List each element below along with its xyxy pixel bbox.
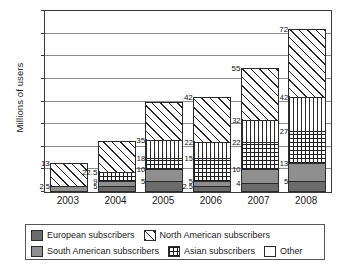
bar-value-label: 42 — [280, 94, 288, 102]
legend-label: North American subscribers — [160, 231, 271, 240]
bar-segment-2008-vertical-stripes: 42 — [288, 97, 326, 131]
legend-row: South American subscribersAsian subscrib… — [31, 244, 319, 258]
bar-segment-2007-diagonal-hatch: 55 — [241, 68, 279, 120]
bar-value-label: 55 — [232, 65, 241, 73]
bar-segment-2005-diagonal-hatch — [145, 102, 183, 140]
bar-group-2006: 2.55152242 — [193, 97, 231, 192]
bar-segment-2004-solid-medium-gray: 9 — [98, 181, 136, 187]
bar-segment-2005-cross-hatch-grid: 18 — [145, 158, 183, 169]
stacked-bar-chart: Millions of users 2.5135922.551018352.55… — [0, 0, 344, 266]
legend-label: South American subscribers — [47, 247, 159, 256]
bar-segment-2006-cross-hatch-grid: 15 — [193, 158, 231, 181]
bar-segment-2008-cross-hatch-grid: 27 — [288, 131, 326, 163]
bar-value-label: 10 — [137, 167, 145, 175]
bar-value-label: 72 — [279, 26, 288, 34]
legend-item[interactable]: Other — [264, 246, 303, 257]
bar-segment-2007-vertical-stripes: 32 — [241, 120, 279, 143]
bar-segment-2005-solid-medium-gray: 10 — [145, 169, 183, 180]
bar-group-2007: 410223255 — [241, 68, 279, 192]
x-axis-tick-labels: 200320042005200620072008 — [44, 195, 332, 209]
bar-segment-2005-vertical-stripes: 35 — [145, 140, 183, 158]
legend-swatch-empty-white — [264, 246, 276, 257]
bar-group-2005: 5101835 — [145, 102, 183, 192]
bar-segment-2004-solid-dark-gray: 5 — [98, 186, 136, 192]
x-axis-tick-label-2006: 2006 — [186, 195, 236, 206]
bar-segment-2008-solid-dark-gray: 5 — [288, 181, 326, 192]
bar-group-2008: 513274272 — [288, 29, 326, 192]
bar-value-label: 42 — [184, 94, 193, 102]
bar-value-label: 15 — [184, 155, 192, 163]
bar-segment-2007-solid-dark-gray: 4 — [241, 183, 279, 192]
bar-segment-2004-diagonal-hatch — [98, 141, 136, 172]
bar-value-label: 32 — [232, 117, 240, 125]
bar-value-label: 13 — [280, 160, 288, 168]
chart-legend: European subscribersNorth American subsc… — [25, 224, 325, 260]
bars-container: 2.5135922.551018352.55152242410223255513… — [45, 11, 331, 192]
plot-area: 2.5135922.551018352.55152242410223255513… — [44, 10, 332, 193]
legend-label: European subscribers — [47, 231, 135, 240]
legend-label: Other — [280, 247, 303, 256]
bar-value-label: 22 — [184, 139, 192, 147]
legend-item[interactable]: Asian subscribers — [168, 246, 255, 257]
legend-item[interactable]: North American subscribers — [144, 230, 271, 241]
y-axis-title: Millions of users — [14, 28, 25, 168]
bar-value-label: 35 — [136, 137, 145, 145]
legend-item[interactable]: European subscribers — [31, 230, 135, 241]
bar-value-label: 2.5 — [39, 184, 49, 192]
bar-segment-2003-solid-medium-gray: 2.5 — [50, 186, 88, 192]
legend-swatch-cross-hatch-grid — [168, 246, 180, 257]
bar-segment-2008-solid-medium-gray: 13 — [288, 163, 326, 181]
bar-segment-2007-cross-hatch-grid: 22 — [241, 142, 279, 169]
bar-segment-2006-diagonal-hatch: 42 — [193, 97, 231, 142]
bar-segment-2005-solid-dark-gray: 5 — [145, 181, 183, 192]
legend-row: European subscribersNorth American subsc… — [31, 228, 319, 242]
bar-segment-2008-diagonal-hatch: 72 — [288, 29, 326, 97]
bar-segment-2007-solid-medium-gray: 10 — [241, 169, 279, 183]
bar-value-label: 13 — [41, 160, 50, 168]
bar-value-label: 10 — [232, 167, 240, 175]
bar-group-2004: 5922.5 — [98, 141, 136, 192]
bar-segment-2006-solid-medium-gray: 5 — [193, 181, 231, 187]
bar-segment-2006-solid-dark-gray: 2.5 — [193, 186, 231, 192]
legend-swatch-solid-dark-gray — [31, 230, 43, 241]
bar-value-label: 22.5 — [82, 169, 98, 177]
bar-value-label: 22 — [232, 140, 240, 148]
bar-value-label: 18 — [137, 155, 145, 163]
bar-segment-2004-cross-hatch-grid: 22.5 — [98, 172, 136, 181]
x-axis-tick-label-2005: 2005 — [138, 195, 188, 206]
bar-value-label: 27 — [280, 128, 288, 136]
x-axis-tick-label-2008: 2008 — [281, 195, 331, 206]
legend-label: Asian subscribers — [184, 247, 255, 256]
legend-swatch-solid-medium-gray — [31, 246, 43, 257]
x-axis-tick-label-2007: 2007 — [234, 195, 284, 206]
bar-segment-2006-vertical-stripes: 22 — [193, 142, 231, 158]
x-axis-tick-label-2003: 2003 — [43, 195, 93, 206]
legend-swatch-diagonal-hatch — [144, 230, 156, 241]
legend-item[interactable]: South American subscribers — [31, 246, 159, 257]
x-axis-tick-label-2004: 2004 — [91, 195, 141, 206]
